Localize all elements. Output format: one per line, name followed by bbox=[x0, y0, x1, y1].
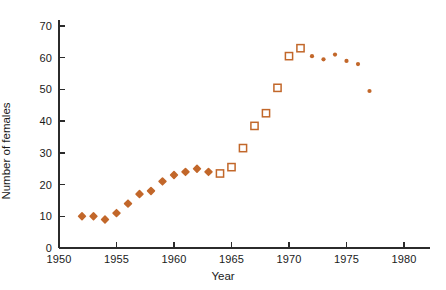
chart-canvas bbox=[0, 0, 446, 290]
data-point bbox=[228, 164, 235, 171]
data-point bbox=[171, 172, 178, 179]
data-point bbox=[262, 110, 269, 117]
data-point bbox=[90, 213, 97, 220]
x-tick-label-1965: 1965 bbox=[219, 253, 244, 265]
data-point bbox=[159, 178, 166, 185]
data-point bbox=[333, 52, 337, 56]
x-tick-label-1970: 1970 bbox=[277, 253, 302, 265]
x-axis-title: Year bbox=[0, 270, 446, 282]
x-tick-label-1960: 1960 bbox=[162, 253, 187, 265]
data-point bbox=[344, 59, 348, 63]
y-tick-label-30: 30 bbox=[18, 147, 52, 159]
data-point bbox=[321, 57, 325, 61]
x-tick-label-1980: 1980 bbox=[392, 253, 417, 265]
data-point bbox=[310, 54, 314, 58]
data-point bbox=[102, 216, 109, 223]
data-point bbox=[367, 89, 371, 93]
data-point bbox=[113, 210, 120, 217]
x-tick-label-1950: 1950 bbox=[47, 253, 72, 265]
x-tick-label-1955: 1955 bbox=[104, 253, 129, 265]
data-markers bbox=[79, 45, 372, 223]
data-point bbox=[251, 122, 258, 129]
data-point bbox=[148, 188, 155, 195]
y-tick-label-60: 60 bbox=[18, 52, 52, 64]
data-point bbox=[205, 168, 212, 175]
data-point bbox=[125, 200, 132, 207]
plot-area: 0102030405060701950195519601965197019751… bbox=[0, 0, 446, 290]
chart-figure: 0102030405060701950195519601965197019751… bbox=[0, 0, 446, 290]
data-point bbox=[274, 84, 281, 91]
x-tick-label-1975: 1975 bbox=[334, 253, 359, 265]
y-tick-label-40: 40 bbox=[18, 115, 52, 127]
data-point bbox=[194, 165, 201, 172]
y-axis-title: Number of females bbox=[0, 102, 12, 199]
data-point bbox=[79, 213, 86, 220]
y-tick-label-70: 70 bbox=[18, 20, 52, 32]
data-point bbox=[297, 45, 304, 52]
y-tick-label-50: 50 bbox=[18, 83, 52, 95]
data-point bbox=[239, 145, 246, 152]
data-point bbox=[136, 191, 143, 198]
y-tick-label-10: 10 bbox=[18, 210, 52, 222]
data-point bbox=[216, 170, 223, 177]
data-point bbox=[356, 62, 360, 66]
y-tick-label-20: 20 bbox=[18, 179, 52, 191]
data-point bbox=[285, 53, 292, 60]
data-point bbox=[182, 168, 189, 175]
